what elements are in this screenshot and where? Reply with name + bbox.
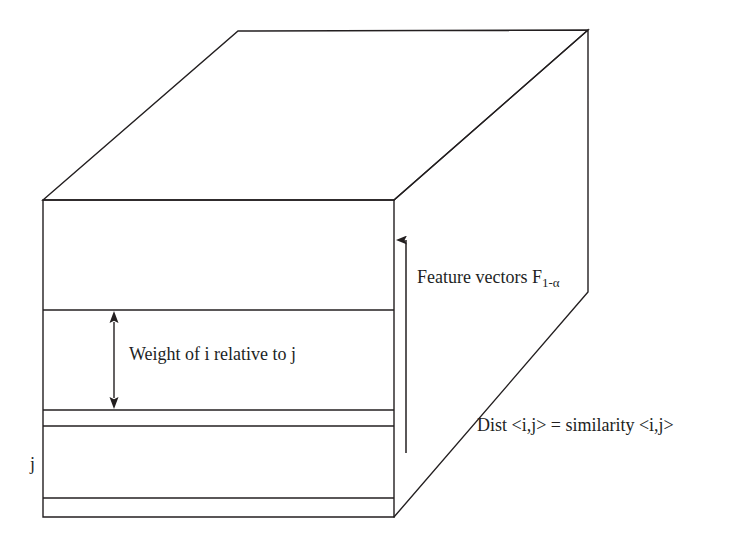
weight-double-arrow [110, 311, 119, 409]
figure-canvas: Feature vectors F1-α Dist <i,j> = simila… [0, 0, 741, 543]
weight-label: Weight of i relative to j [129, 345, 296, 363]
dist-similarity-label: Dist <i,j> = similarity <i,j> [477, 416, 674, 434]
front-face-dividers [43, 310, 394, 498]
feature-vectors-label-main: Feature vectors F [417, 267, 542, 287]
feature-vectors-label-subscript: 1-α [542, 275, 560, 290]
cuboid-top-face-edge [43, 30, 588, 200]
weight-arrow-head-up [110, 311, 119, 323]
weight-arrow-head-down [110, 397, 119, 409]
feature-vectors-label: Feature vectors F1-α [417, 268, 560, 289]
cuboid-diagram-svg [0, 0, 741, 543]
j-axis-label: j [30, 455, 35, 473]
